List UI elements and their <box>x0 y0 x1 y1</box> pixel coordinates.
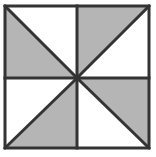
pinwheel-figure <box>0 0 156 157</box>
pinwheel-figure-container: Pinwheel square divided into eight trian… <box>0 0 156 157</box>
